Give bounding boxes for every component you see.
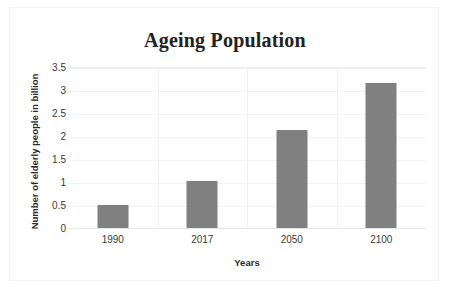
x-axis-tick-labels: 1990201720502100 [68,234,426,250]
y-axis-tick-label: 2 [30,131,66,142]
y-axis-tick-label: 3 [30,85,66,96]
y-axis-tick-label: 1 [30,177,66,188]
bar-series [68,68,426,228]
bar-slot [337,68,427,228]
x-axis-tick-label: 2100 [370,234,392,245]
bar-slot [68,68,158,228]
y-axis-tick-label: 3.5 [30,62,66,73]
y-axis-tick-labels: 00.511.522.533.5 [30,60,66,236]
bar-1990[interactable] [97,205,128,228]
bar-2100[interactable] [366,83,397,228]
chart-container: Ageing Population Number of elderly peop… [9,7,439,281]
y-axis-tick-label: 0.5 [30,200,66,211]
chart-title: Ageing Population [10,29,440,52]
x-axis-tick-label: 1990 [102,234,124,245]
y-axis-tick-label: 0 [30,223,66,234]
plot-area [68,67,426,228]
x-axis-tick-label: 2017 [191,234,213,245]
x-axis-title: Years [68,257,426,268]
x-axis-tick-label: 2050 [281,234,303,245]
bar-2017[interactable] [187,181,218,228]
bar-slot [158,68,248,228]
bar-slot [247,68,337,228]
y-axis-tick-label: 2.5 [30,108,66,119]
bar-2050[interactable] [276,130,307,228]
y-axis-tick-label: 1.5 [30,154,66,165]
axis-baseline [68,228,426,229]
